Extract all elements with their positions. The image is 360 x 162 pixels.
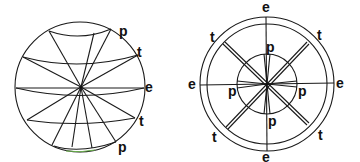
label-p-top: p (266, 39, 275, 55)
label-e-bottom: e (262, 149, 270, 162)
left-arc-p-top (49, 29, 111, 36)
left-arc-p-bottom (54, 142, 116, 149)
label-e: e (145, 79, 153, 95)
left-arc-t-bottom (27, 118, 135, 124)
label-p-bottom: p (268, 113, 277, 129)
diagram-canvas: p t e t p e e e e t t t t p (0, 0, 360, 162)
left-arc-t-top (23, 55, 138, 64)
left-projection: p t e t p (15, 22, 153, 155)
label-e-top: e (262, 0, 270, 15)
label-p-left: p (228, 83, 237, 99)
label-t-bl: t (212, 129, 217, 145)
label-p-right: p (298, 83, 307, 99)
right-projection: e e e e t t t t p p p p (188, 0, 344, 162)
label-p-bottom: p (118, 139, 127, 155)
label-p-top: p (119, 23, 128, 39)
label-t-tl: t (210, 29, 215, 45)
label-e-left: e (188, 76, 196, 92)
label-e-right: e (336, 75, 344, 91)
label-t-tr: t (317, 27, 322, 43)
label-t-top: t (137, 44, 142, 60)
label-t-br: t (318, 127, 323, 143)
label-t-bottom: t (139, 113, 144, 129)
